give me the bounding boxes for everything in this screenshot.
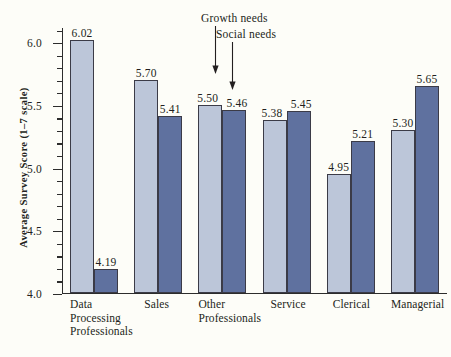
- bar-social-needs: 5.41: [158, 116, 182, 293]
- y-axis-minor-tick: [57, 68, 62, 69]
- x-axis-category-label: Service: [271, 298, 306, 312]
- plot-area: 4.04.55.05.56.0 6.024.195.705.415.505.46…: [62, 28, 447, 294]
- y-axis-minor-tick: [57, 131, 62, 132]
- bar-value-label: 5.41: [160, 103, 181, 115]
- x-axis-category-label: DataProcessingProfessionals: [70, 298, 133, 339]
- x-axis-category-label-line: Other: [198, 298, 261, 312]
- bar-growth-needs: 5.50: [198, 105, 222, 293]
- y-axis-major-tick: 4.0: [53, 294, 62, 295]
- y-axis-tick-label: 5.5: [27, 100, 42, 112]
- x-axis-category-label: Managerial: [391, 298, 444, 312]
- bar-social-needs: 4.19: [94, 269, 118, 293]
- y-axis-tick-label: 5.0: [27, 163, 42, 175]
- bar-growth-needs: 5.38: [263, 120, 287, 293]
- bar-value-label: 5.30: [392, 117, 413, 129]
- y-axis-line: [62, 28, 63, 294]
- y-axis-minor-tick: [57, 281, 62, 282]
- bar-value-label: 5.50: [197, 92, 218, 104]
- y-axis-minor-tick: [57, 81, 62, 82]
- x-axis-category-label-line: Service: [271, 298, 306, 312]
- x-axis-category-label: Sales: [144, 298, 169, 312]
- y-axis-minor-tick: [57, 118, 62, 119]
- x-axis-category-label-line: Sales: [144, 298, 169, 312]
- y-axis-minor-tick: [57, 269, 62, 270]
- y-axis-major-tick: 6.0: [53, 43, 62, 44]
- y-axis-tick-label: 4.0: [27, 288, 42, 300]
- bar-value-label: 5.45: [291, 98, 312, 110]
- y-axis-minor-tick: [57, 143, 62, 144]
- bar-value-label: 5.70: [136, 67, 157, 79]
- y-axis-major-tick: 5.0: [53, 169, 62, 170]
- bar-value-label: 5.46: [227, 97, 248, 109]
- y-axis-minor-tick: [57, 31, 62, 32]
- y-axis-minor-tick: [57, 93, 62, 94]
- x-axis-category-label-line: Data: [70, 298, 133, 312]
- bar-growth-needs: 4.95: [327, 174, 351, 293]
- y-axis-minor-tick: [57, 56, 62, 57]
- bar-value-label: 5.38: [261, 107, 282, 119]
- x-axis-category-label-line: Managerial: [391, 298, 444, 312]
- annotation-growth-needs-label: Growth needs: [201, 12, 268, 24]
- x-axis-category-label-line: Processing: [70, 312, 133, 326]
- x-axis-category-label-line: Professionals: [198, 312, 261, 326]
- y-axis-major-tick: 5.5: [53, 106, 62, 107]
- y-axis-minor-tick: [57, 181, 62, 182]
- y-axis-minor-tick: [57, 206, 62, 207]
- y-axis-minor-tick: [57, 219, 62, 220]
- x-axis-category-label-line: Professionals: [70, 325, 133, 339]
- y-axis-minor-tick: [57, 256, 62, 257]
- bar-growth-needs: 5.70: [134, 80, 158, 293]
- bar-social-needs: 5.21: [351, 141, 375, 293]
- annotation-social-needs-label: Social needs: [216, 28, 276, 40]
- x-axis-category-label-line: Clerical: [333, 298, 370, 312]
- bar-value-label: 5.65: [416, 73, 437, 85]
- x-axis-category-label: Clerical: [333, 298, 370, 312]
- bar-chart: Average Survey Score (1–7 scale) 4.04.55…: [0, 0, 451, 357]
- bar-social-needs: 5.45: [287, 111, 311, 293]
- y-axis-major-tick: 4.5: [53, 231, 62, 232]
- bar-value-label: 4.95: [328, 161, 349, 173]
- bar-value-label: 4.19: [96, 256, 117, 268]
- x-axis-category-label: OtherProfessionals: [198, 298, 261, 325]
- bar-growth-needs: 6.02: [70, 40, 94, 293]
- y-axis-minor-tick: [57, 156, 62, 157]
- bar-growth-needs: 5.30: [391, 130, 415, 293]
- x-axis-line: [62, 293, 447, 294]
- y-axis-tick-label: 6.0: [27, 37, 42, 49]
- bar-value-label: 5.21: [352, 128, 373, 140]
- y-axis-minor-tick: [57, 194, 62, 195]
- bar-social-needs: 5.46: [222, 110, 246, 293]
- bar-social-needs: 5.65: [415, 86, 439, 293]
- y-axis-tick-label: 4.5: [27, 225, 42, 237]
- annotation-social-needs-arrow: [228, 42, 237, 90]
- y-axis-minor-tick: [57, 244, 62, 245]
- bar-value-label: 6.02: [72, 27, 93, 39]
